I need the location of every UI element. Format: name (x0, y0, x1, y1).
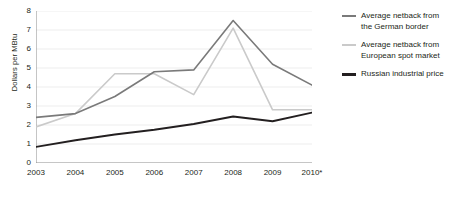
chart-canvas (36, 11, 312, 163)
legend-label-line2: the German border (361, 22, 429, 31)
y-axis-title: Dollars per MBtu (10, 21, 19, 105)
legend-label-line1: Russian industrial price (361, 69, 444, 78)
legend-swatch-russian-price (342, 73, 356, 76)
x-axis-tick-label: 2006 (145, 169, 163, 177)
chart-legend: Average netback from the German border A… (342, 10, 464, 86)
legend-swatch-european-spot (342, 44, 356, 46)
y-axis-tick-label: 4 (27, 83, 31, 91)
chart-figure: Dollars per MBtu 01234567820032004200520… (0, 0, 464, 199)
y-axis-tick-label: 2 (27, 121, 31, 129)
y-axis-tick-label: 8 (27, 7, 31, 15)
legend-swatch-german-border (342, 15, 356, 17)
x-axis-tick-label: 2008 (224, 169, 242, 177)
plot-area: 0123456782003200420052006200720082009201… (36, 11, 312, 163)
legend-label-line2: European spot market (361, 51, 440, 60)
y-axis-tick-label: 1 (27, 140, 31, 148)
x-axis-tick-label: 2007 (185, 169, 203, 177)
x-axis-tick-label: 2009 (264, 169, 282, 177)
legend-label-russian-price: Russian industrial price (361, 68, 444, 79)
x-axis-tick-label: 2004 (67, 169, 85, 177)
y-axis-tick-label: 0 (27, 159, 31, 167)
x-axis-tick-label: 2010* (302, 169, 323, 177)
legend-item-russian-price: Russian industrial price (342, 68, 464, 79)
y-axis-tick-label: 7 (27, 26, 31, 34)
x-axis-tick-label: 2003 (27, 169, 45, 177)
x-axis-tick-label: 2005 (106, 169, 124, 177)
legend-label-german-border: Average netback from the German border (361, 10, 439, 32)
legend-item-european-spot: Average netback from European spot marke… (342, 39, 464, 61)
y-axis-tick-label: 5 (27, 64, 31, 72)
legend-item-german-border: Average netback from the German border (342, 10, 464, 32)
legend-label-line1: Average netback from (361, 40, 439, 49)
legend-label-european-spot: Average netback from European spot marke… (361, 39, 440, 61)
legend-label-line1: Average netback from (361, 11, 439, 20)
y-axis-tick-label: 6 (27, 45, 31, 53)
y-axis-tick-label: 3 (27, 102, 31, 110)
